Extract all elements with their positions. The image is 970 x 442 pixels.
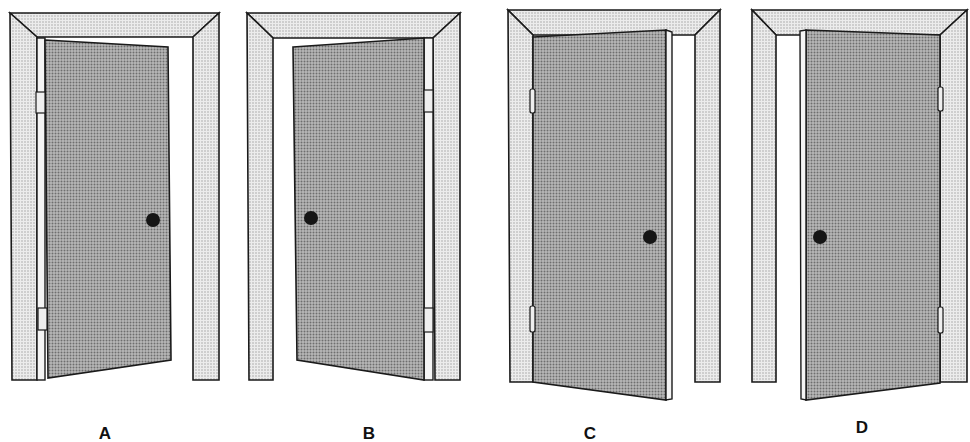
door-leaf bbox=[293, 38, 424, 380]
door-knob-icon bbox=[146, 213, 160, 227]
hinge-top-icon bbox=[938, 87, 943, 111]
door-knob-icon bbox=[304, 211, 318, 225]
doors-diagram bbox=[0, 0, 970, 442]
hinge-bottom-icon bbox=[530, 306, 535, 332]
door-edge bbox=[666, 30, 672, 400]
door-label-d: D bbox=[856, 418, 868, 438]
door-label-c: C bbox=[584, 424, 596, 442]
door-label-b: B bbox=[363, 424, 375, 442]
hinge-top-icon bbox=[36, 92, 45, 113]
door-b bbox=[247, 13, 460, 380]
door-c bbox=[508, 10, 720, 400]
door-edge bbox=[800, 30, 806, 400]
door-knob-icon bbox=[813, 230, 827, 244]
door-leaf bbox=[45, 40, 171, 378]
door-leaf bbox=[806, 30, 940, 400]
hinge-bottom-icon bbox=[38, 308, 47, 330]
door-label-a: A bbox=[99, 424, 111, 442]
door-a bbox=[10, 13, 219, 380]
hinge-top-icon bbox=[530, 89, 535, 113]
door-knob-icon bbox=[643, 230, 657, 244]
door-leaf bbox=[533, 30, 666, 400]
hinge-bottom-icon bbox=[424, 308, 433, 332]
hinge-bottom-icon bbox=[938, 307, 943, 333]
hinge-top-icon bbox=[424, 90, 433, 112]
door-d bbox=[752, 10, 967, 400]
